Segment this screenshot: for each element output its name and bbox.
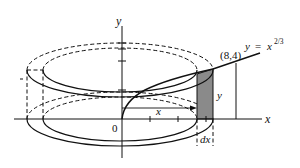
bottom-outer-ellipse-front <box>27 119 213 146</box>
top-outer-ellipse-back <box>27 43 213 70</box>
equation-exponent: 2/3 <box>274 37 284 46</box>
equation-base: x <box>266 40 272 52</box>
radius-label: x <box>155 105 161 117</box>
y-axis-label: y <box>115 14 122 28</box>
top-outer-ellipse-front <box>27 70 213 97</box>
x-axis-label: x <box>264 112 271 126</box>
equation-lhs: y <box>244 40 250 52</box>
bottom-inner-ellipse-front <box>43 119 197 141</box>
radius-arrowhead <box>190 106 197 111</box>
top-inner-ellipse-front <box>43 70 197 92</box>
origin-label: 0 <box>112 122 118 134</box>
height-label: y <box>216 89 222 101</box>
top-inner-ellipse-back <box>43 48 197 70</box>
thickness-label: dx <box>200 133 211 145</box>
point-label: (8,4) <box>220 49 241 62</box>
curve-equation: y = x 2/3 <box>244 37 284 52</box>
shell-method-diagram: y x 0 x y dx (8,4) y = x 2/3 <box>0 0 300 168</box>
equation-equals: = <box>255 40 261 52</box>
bottom-outer-ellipse-back <box>27 92 213 119</box>
